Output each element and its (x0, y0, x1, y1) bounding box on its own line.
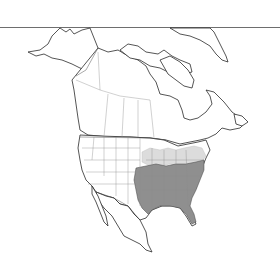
newfoundland (234, 114, 248, 126)
baffin-island (160, 56, 194, 88)
north-america-range-map (0, 0, 280, 262)
land-masses (28, 28, 248, 252)
greenland (170, 28, 228, 62)
